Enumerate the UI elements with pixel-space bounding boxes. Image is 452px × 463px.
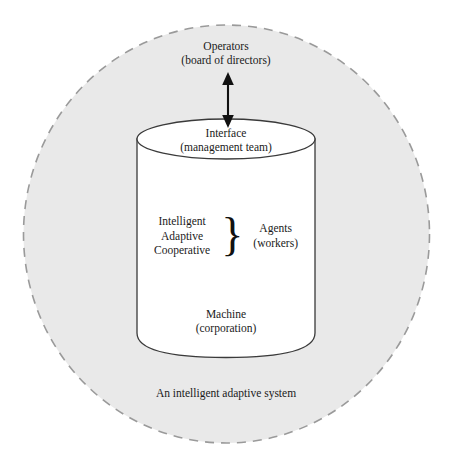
interface-title: Interface — [206, 127, 247, 139]
agent-attribute-cooperative: Cooperative — [154, 243, 210, 258]
operators-label: Operators (board of directors) — [0, 40, 452, 67]
interface-subtitle: (management team) — [0, 141, 452, 155]
machine-label: Machine (corporation) — [137, 308, 315, 335]
agent-attributes-list: Intelligent Adaptive Cooperative — [154, 214, 210, 259]
system-caption: An intelligent adaptive system — [0, 387, 452, 401]
agent-attribute-intelligent: Intelligent — [154, 214, 210, 229]
agents-subtitle: (workers) — [253, 236, 298, 251]
interface-label: Interface (management team) — [0, 127, 452, 154]
machine-title: Machine — [206, 308, 246, 320]
agent-attribute-adaptive: Adaptive — [154, 229, 210, 244]
operators-title: Operators — [203, 40, 248, 52]
operators-subtitle: (board of directors) — [0, 54, 452, 68]
diagram-canvas: Operators (board of directors) Interface… — [0, 0, 452, 463]
curly-brace-icon: } — [221, 216, 243, 254]
machine-subtitle: (corporation) — [137, 322, 315, 336]
agents-cluster: Intelligent Adaptive Cooperative } Agent… — [137, 208, 315, 264]
agents-title: Agents — [253, 221, 298, 236]
agents-label: Agents (workers) — [253, 221, 298, 251]
